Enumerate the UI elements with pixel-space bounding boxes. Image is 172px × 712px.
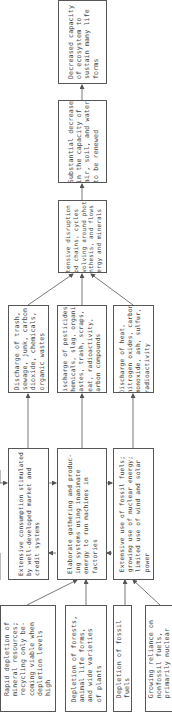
box-elaborate-gathering: Elaborate gathering and produc- ing syst… [57, 448, 107, 580]
box-decreased-capacity: Decreased capacity of ecosystem to susta… [58, 0, 107, 84]
box-label: Rapid depletion of mineral resources; re… [3, 621, 52, 695]
box-discharge-heat: Discharge of heat, nitrogen oxides, carb… [113, 305, 154, 393]
box-rapid-depletion: Rapid depletion of mineral resources; re… [0, 605, 56, 712]
box-extensive-disruption: Extensive disruption of food chains, cyc… [58, 200, 107, 273]
box-extensive-consumption: Extensive consumption stimulated by well… [8, 448, 49, 580]
box-label: Extensive use of fossil fuels; growing u… [117, 456, 150, 572]
box-depletion-fossil: Depletion of fossil fuels [113, 605, 132, 712]
box-label: Depletion of forests, animal life forms,… [70, 615, 103, 702]
box-substantial-decrease: Substantial decrease in the capacity of … [58, 100, 107, 183]
box-discharge-trash: Discharge of trash, sewage, junk, carbon… [8, 305, 49, 393]
box-label: Substantial decrease in the capacity of … [66, 100, 99, 182]
box-label: Depletion of fossil fuels [114, 619, 130, 697]
box-growing-reliance: Growing reliance on nonfossil fuels, pri… [145, 605, 172, 712]
box-discharge-pesticides: Discharge of pesticides, chemicals, slag… [57, 305, 107, 393]
box-label: Discharge of heat, nitrogen oxides, carb… [117, 305, 150, 393]
box-label: Elaborate gathering and produc- ing syst… [66, 454, 99, 574]
box-label: Extensive consumption stimulated by well… [16, 452, 41, 576]
box-label: Growing reliance on nonfossil fuels, pri… [147, 619, 172, 697]
box-label: Discharge of trash, sewage, junk, carbon… [12, 308, 45, 390]
box-label: Decreased capacity of ecosystem to susta… [66, 5, 99, 79]
box-label: Extensive disruption of food chains, cyc… [63, 200, 102, 273]
box-label: Discharge of pesticides, chemicals, slag… [61, 305, 102, 393]
box-extensive-fossil-use: Extensive use of fossil fuels; growing u… [113, 448, 154, 580]
box-depletion-forests: Depletion of forests, animal life forms,… [65, 605, 107, 712]
